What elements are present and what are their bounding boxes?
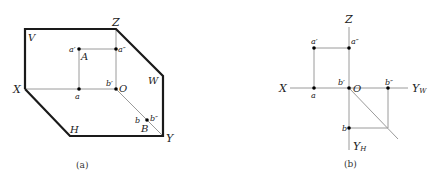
point-a-dprime xyxy=(347,46,351,50)
figure-b: X Z O YW YH a′ a″ a b′ b″ b (b) xyxy=(278,13,427,169)
plane-label-v: V xyxy=(28,32,37,43)
label-a-prime: a′ xyxy=(311,37,318,46)
y-axis-line xyxy=(116,89,163,136)
label-a-prime: a′ xyxy=(69,45,76,54)
label-b-prime: b′ xyxy=(338,78,345,87)
point-a-prime xyxy=(312,46,316,50)
label-b: b xyxy=(135,116,140,125)
45-degree-line xyxy=(349,88,398,139)
label-a: a xyxy=(311,91,316,100)
point-a xyxy=(312,86,316,90)
label-b-prime: b′ xyxy=(106,79,113,88)
axis-label-x: X xyxy=(278,82,288,95)
plane-label-w: W xyxy=(148,75,159,86)
axis-label-yw: YW xyxy=(412,82,427,95)
origin-label-o: O xyxy=(119,83,127,94)
projection-box-frame xyxy=(25,29,163,136)
label-b-dprime: b″ xyxy=(385,78,393,87)
point-b-prime xyxy=(114,87,118,91)
axis-label-z: Z xyxy=(344,13,353,26)
axis-label-y: Y xyxy=(166,132,175,145)
point-a xyxy=(77,87,81,91)
label-a-dprime: a″ xyxy=(351,37,359,46)
axis-label-z: Z xyxy=(111,16,120,29)
point-b-prime xyxy=(347,86,351,90)
plane-label-h: H xyxy=(69,124,79,135)
label-b: b xyxy=(342,124,347,133)
label-B: B xyxy=(140,123,148,134)
origin-label-o: O xyxy=(353,83,361,94)
projection-diagram: V H W X Z Y O a′ A a″ a b′ b b″ B (a) xyxy=(0,0,438,185)
point-b-dprime xyxy=(145,118,149,122)
caption-a: (a) xyxy=(76,160,88,170)
point-b xyxy=(347,126,351,130)
figure-a: V H W X Z Y O a′ A a″ a b′ b b″ B (a) xyxy=(12,16,175,170)
axis-label-x: X xyxy=(12,83,22,96)
label-A: A xyxy=(80,51,88,62)
caption-b: (b) xyxy=(344,159,357,169)
label-a-dprime: a″ xyxy=(118,45,126,54)
label-b-dprime: b″ xyxy=(150,114,158,123)
label-a: a xyxy=(75,92,80,101)
axis-label-yh: YH xyxy=(353,140,367,153)
